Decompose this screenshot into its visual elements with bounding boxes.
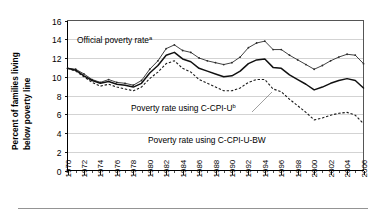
x-axis-tick-label: 1980 <box>146 159 155 177</box>
data-point-marker <box>313 68 315 70</box>
chart-figure: 0246810121416 19701972197419761978198019… <box>0 0 386 216</box>
series-line-ccpi-u <box>68 52 364 89</box>
annotation-ccpi-u-bw: Poverty rate using C-CPI-U-BW <box>148 135 266 145</box>
annotation-ccpi-u: Poverty rate using C-CPI-Ub <box>131 103 236 113</box>
x-axis-tick-label: 2006 <box>360 159 369 177</box>
data-point-marker <box>190 51 192 53</box>
data-point-marker <box>338 56 340 58</box>
y-axis-tick-label: 16 <box>52 17 62 27</box>
x-axis-tick-label: 1976 <box>113 159 122 177</box>
series-markers-official-poverty-rate <box>67 40 365 86</box>
x-axis-tick-label: 1992 <box>244 159 253 177</box>
data-point-marker <box>363 63 365 65</box>
y-axis-title: Percent of families living below poverty… <box>10 52 32 150</box>
x-axis-tick-label: 1998 <box>294 159 303 177</box>
annotation-official-poverty-rate: Official poverty ratea <box>77 35 153 45</box>
data-point-marker <box>165 48 167 50</box>
data-point-marker <box>247 47 249 49</box>
x-axis-tick-label: 1988 <box>212 159 221 177</box>
x-axis-tick-label: 1970 <box>64 159 73 177</box>
data-point-marker <box>149 68 151 70</box>
data-point-marker <box>289 54 291 56</box>
data-point-marker <box>256 42 258 44</box>
x-axis-tick-label: 1984 <box>179 159 188 177</box>
x-axis-tick-label: 1986 <box>195 159 204 177</box>
x-axis-tick-label: 1972 <box>80 159 89 177</box>
svg-text:Percent of families living: Percent of families living <box>10 52 20 150</box>
y-axis-tick-label: 12 <box>52 54 62 64</box>
poverty-rate-line-chart: 0246810121416 19701972197419761978198019… <box>0 0 386 216</box>
x-axis-tick-label: 1990 <box>228 159 237 177</box>
data-point-marker <box>280 49 282 51</box>
data-point-marker <box>346 53 348 55</box>
x-axis-tick-label: 2004 <box>343 159 352 177</box>
data-point-marker <box>206 60 208 62</box>
data-point-marker <box>173 44 175 46</box>
data-point-marker <box>297 59 299 61</box>
data-point-marker <box>223 64 225 66</box>
data-point-marker <box>239 56 241 58</box>
svg-text:below poverty line: below poverty line <box>22 77 32 150</box>
svg-text:Poverty rate using C-CPI-U-BW: Poverty rate using C-CPI-U-BW <box>148 135 266 145</box>
data-point-marker <box>264 40 266 42</box>
data-point-marker <box>141 80 143 82</box>
y-axis: 0246810121416 <box>52 17 67 177</box>
data-point-marker <box>231 62 233 64</box>
series-leader-lines <box>252 92 272 112</box>
x-axis: 1970197219741976197819801982198419861988… <box>64 159 369 177</box>
x-axis-tick-label: 1996 <box>277 159 286 177</box>
svg-text:Official poverty ratea: Official poverty ratea <box>77 35 153 45</box>
x-axis-tick-label: 1994 <box>261 159 270 177</box>
data-point-marker <box>215 62 217 64</box>
data-point-marker <box>182 50 184 52</box>
x-axis-tick-label: 1974 <box>96 159 105 177</box>
y-axis-tick-label: 4 <box>57 129 62 139</box>
x-axis-tick-label: 2002 <box>327 159 336 177</box>
data-point-marker <box>157 60 159 62</box>
x-axis-tick-label: 1978 <box>129 159 138 177</box>
x-axis-tick-label: 2000 <box>310 159 319 177</box>
y-axis-tick-label: 8 <box>57 92 62 102</box>
data-point-marker <box>198 57 200 59</box>
data-point-marker <box>116 81 118 83</box>
y-axis-tick-label: 2 <box>57 148 62 158</box>
data-point-marker <box>305 64 307 66</box>
data-point-marker <box>132 84 134 86</box>
data-point-marker <box>330 60 332 62</box>
data-point-marker <box>354 54 356 56</box>
svg-text:Poverty rate using C-CPI-Ub: Poverty rate using C-CPI-Ub <box>131 103 236 113</box>
y-axis-tick-label: 0 <box>57 167 62 177</box>
data-point-marker <box>108 79 110 81</box>
x-axis-tick-label: 1982 <box>162 159 171 177</box>
y-axis-tick-label: 6 <box>57 110 62 120</box>
y-axis-tick-label: 10 <box>52 73 62 83</box>
data-point-marker <box>321 65 323 67</box>
data-point-marker <box>272 49 274 51</box>
data-point-marker <box>124 82 126 84</box>
y-axis-tick-label: 14 <box>52 35 62 45</box>
